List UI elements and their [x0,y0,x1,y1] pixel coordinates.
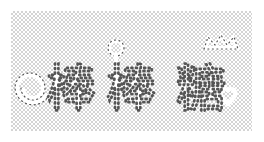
character-tang: 糖 [176,60,226,118]
character-bang-1: 棒 [46,60,97,118]
crown-icon [204,35,238,49]
spiral-lollipop-icon [15,73,49,105]
character-bang-2: 棒 [106,60,157,118]
small-lollipop-icon [108,40,124,62]
lettering-artwork: 棒 棒 糖 [0,0,264,142]
